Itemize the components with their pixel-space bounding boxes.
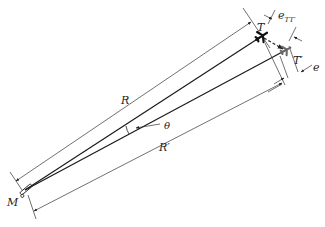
dimension-line-R-prime [34, 83, 282, 211]
label-T: T [257, 21, 266, 34]
label-e-TT-sub: TT′ [285, 16, 296, 24]
label-e: e [313, 61, 320, 74]
extension-line-e2 [280, 56, 288, 78]
line-of-sight-R [25, 36, 262, 190]
extension-line-Tprime-lower [265, 43, 285, 85]
radar-geometry-diagram: R R′ θ T T′ e eTT′ M [0, 0, 325, 227]
label-R: R [120, 94, 129, 107]
label-e-TT-prime: eTT′ [278, 9, 296, 24]
extension-line-etT2 [289, 27, 296, 41]
label-R-prime: R′ [158, 141, 170, 154]
extension-line-M-lower [28, 195, 36, 219]
dimension-line-R [16, 22, 251, 181]
label-theta: θ [164, 120, 170, 131]
extension-line-etT [268, 10, 275, 24]
dimension-arrow-eTT-left [264, 15, 272, 19]
dimension-arrow-eTT-right [294, 37, 302, 41]
missile-M-icon [18, 184, 34, 198]
line-of-sight-R-prime [25, 50, 286, 190]
dimension-tick-lower [268, 84, 282, 92]
label-T-prime: T′ [293, 54, 303, 67]
label-M: M [6, 196, 19, 209]
theta-angle-arc [126, 126, 129, 134]
dimension-arrow-e2 [274, 78, 284, 84]
